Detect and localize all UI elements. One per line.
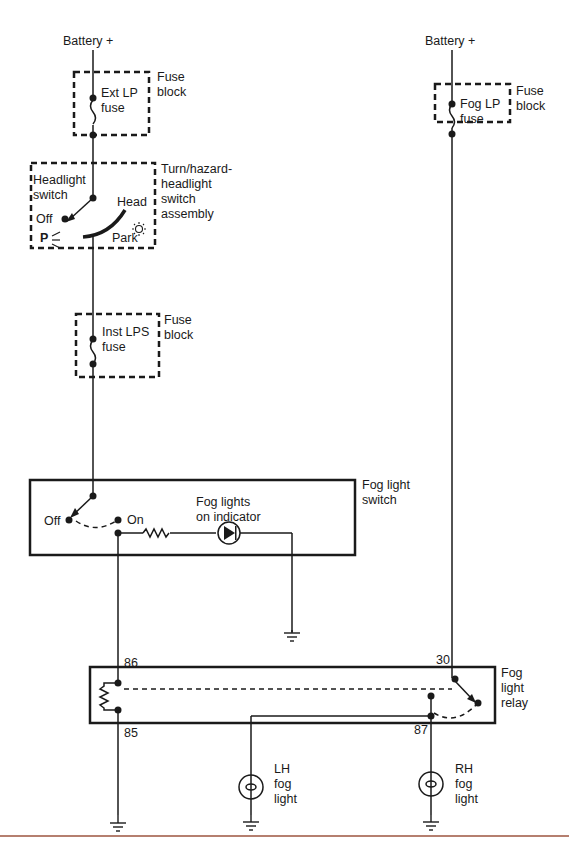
relay-terminal-87: 87 <box>414 723 428 738</box>
fog-lp-fuse-block-label: Fuse block <box>516 84 545 114</box>
rh-fog-light-label: RH fog light <box>455 762 478 807</box>
ext-lp-fuse-icon <box>91 100 96 124</box>
park-p-label: P <box>40 231 48 246</box>
headlight-head-label: Head <box>117 195 147 210</box>
fog-indicator-label: Fog lights on indicator <box>196 495 261 525</box>
ground-indicator-icon <box>284 633 300 641</box>
ground-rh-light-icon <box>423 822 439 830</box>
relay-terminal-86: 86 <box>124 656 138 671</box>
inst-lps-fuse-label: Inst LPS fuse <box>102 325 149 355</box>
fog-light-relay-label: Fog light relay <box>501 666 528 711</box>
wiring-schematic <box>0 0 569 856</box>
battery-right-label: Battery + <box>425 34 475 49</box>
ground-lh-light-icon <box>243 822 259 830</box>
fog-light-switch-label: Fog light switch <box>362 478 410 508</box>
fog-lp-fuse-icon <box>450 104 455 128</box>
headlight-switch-assembly-label: Turn/hazard- headlight switch assembly <box>161 162 232 222</box>
resistor-icon <box>143 529 169 537</box>
headlight-park-label: Park <box>112 231 138 246</box>
bottom-rule <box>0 835 569 837</box>
inst-lps-fuse-icon <box>91 340 96 364</box>
inst-lps-fuse-block-label: Fuse block <box>164 313 193 343</box>
relay-terminal-85: 85 <box>124 726 138 741</box>
fog-switch-on-label: On <box>127 513 144 528</box>
headlight-switch-label: Headlight switch <box>33 173 86 203</box>
ext-lp-fuse-block-label: Fuse block <box>157 70 186 100</box>
headlight-off-label: Off <box>36 212 52 227</box>
lh-fog-light-label: LH fog light <box>274 762 297 807</box>
fog-light-switch-box <box>30 480 355 555</box>
fog-lp-fuse-label: Fog LP fuse <box>460 97 500 127</box>
ext-lp-fuse-label: Ext LP fuse <box>101 86 138 116</box>
relay-terminal-30: 30 <box>436 653 450 668</box>
fog-switch-off-label: Off <box>44 514 60 529</box>
fog-switch-dashed-travel <box>76 521 116 528</box>
ground-relay-85-icon <box>110 823 126 831</box>
relay-coil-icon <box>100 683 118 710</box>
battery-left-label: Battery + <box>63 34 113 49</box>
relay-switch-travel <box>434 705 476 718</box>
park-lamp-symbol-icon <box>52 232 60 248</box>
